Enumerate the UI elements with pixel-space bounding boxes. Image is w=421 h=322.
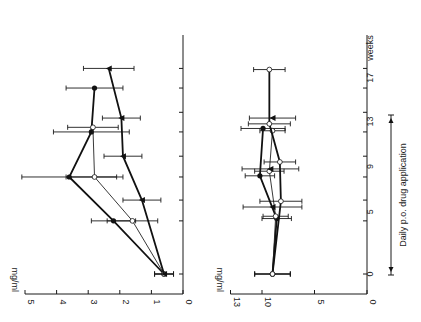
open-circle-marker xyxy=(277,160,282,165)
value-tick-label: 4 xyxy=(58,299,68,304)
arrow-head-icon xyxy=(389,267,394,272)
week-tick-label: 13 xyxy=(365,117,375,127)
open-circle-marker xyxy=(273,214,278,219)
week-tick-label: 17 xyxy=(365,73,375,83)
open-circle-marker xyxy=(270,272,275,277)
filled-triangle-marker xyxy=(270,115,276,121)
series-line-1 xyxy=(93,127,164,274)
open-circle-marker xyxy=(130,218,135,223)
filled-circle-marker xyxy=(257,173,262,178)
week-tick-label: 9 xyxy=(365,164,375,169)
value-tick-label: 5 xyxy=(26,299,36,304)
value-tick-label: 0 xyxy=(184,299,194,304)
week-tick-label: 0 xyxy=(365,271,375,276)
open-circle-marker xyxy=(267,67,272,72)
value-tick-label: 2 xyxy=(121,299,131,304)
filled-circle-marker xyxy=(260,126,265,131)
arrow-head-icon xyxy=(389,118,394,123)
open-circle-marker xyxy=(267,121,272,126)
chart-figure: 012345mg/ml051013mg/ml0591317weeksDaily … xyxy=(0,0,421,322)
open-circle-marker xyxy=(279,199,284,204)
application-label: Daily p.o. drug application xyxy=(398,143,408,247)
value-tick-label: 10 xyxy=(263,297,273,307)
series-line-0 xyxy=(69,88,164,274)
value-tick-label: 0 xyxy=(368,299,378,304)
value-tick-label: 13 xyxy=(232,297,242,307)
value-tick-label: 1 xyxy=(152,299,162,304)
filled-circle-marker xyxy=(92,85,97,90)
value-tick-label: 5 xyxy=(316,299,326,304)
weeks-label: weeks xyxy=(365,35,375,62)
rotated-line-chart: 012345mg/ml051013mg/ml0591317weeksDaily … xyxy=(0,0,421,322)
value-tick-label: 3 xyxy=(89,299,99,304)
series-line-2 xyxy=(109,68,164,274)
unit-label: mg/ml xyxy=(215,268,225,293)
unit-label: mg/ml xyxy=(10,268,20,293)
open-circle-marker xyxy=(92,175,97,180)
open-circle-marker xyxy=(91,125,96,130)
week-tick-label: 5 xyxy=(365,209,375,214)
